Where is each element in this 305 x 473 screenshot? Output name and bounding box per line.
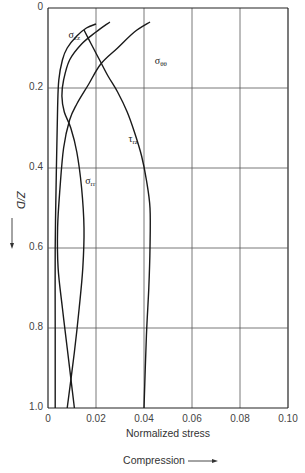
- x-tick-label: 0: [45, 413, 51, 424]
- y-tick-label: 1.0: [29, 401, 43, 412]
- stress-chart: σzzσrrσθθτrz 00.020.040.060.080.10 00.20…: [0, 0, 305, 473]
- compression-arrow-icon: [188, 459, 218, 463]
- y-tick-label: 0: [37, 1, 43, 12]
- y-axis-title: Z/D: [15, 190, 27, 209]
- x-axis-ticks: 00.020.040.060.080.10: [45, 413, 298, 424]
- x-axis-title: Normalized stress: [126, 427, 210, 439]
- x-tick-label: 0.06: [182, 413, 202, 424]
- label-θθ: σθθ: [155, 55, 168, 68]
- label-rz: τrz: [128, 133, 137, 146]
- curve-rr: [62, 22, 110, 408]
- x-tick-label: 0.04: [134, 413, 154, 424]
- y-tick-label: 0.6: [29, 241, 43, 252]
- down-arrow-icon: [10, 218, 14, 249]
- x-tick-label: 0.10: [278, 413, 298, 424]
- stress-curves: [55, 22, 150, 408]
- y-tick-label: 0.2: [29, 81, 43, 92]
- curve-rz: [84, 30, 150, 408]
- label-rr: σrr: [85, 175, 96, 188]
- label-zz: σzz: [68, 29, 80, 42]
- curve-labels: σzzσrrσθθτrz: [68, 29, 167, 188]
- curve-θθ: [57, 22, 150, 408]
- grid-lines: [48, 8, 288, 408]
- y-tick-label: 0.4: [29, 161, 43, 172]
- x-tick-label: 0.02: [86, 413, 106, 424]
- compression-note: Compression: [123, 454, 185, 466]
- x-tick-label: 0.08: [230, 413, 250, 424]
- y-axis-ticks: 00.20.40.60.81.0: [29, 1, 43, 412]
- y-tick-label: 0.8: [29, 321, 43, 332]
